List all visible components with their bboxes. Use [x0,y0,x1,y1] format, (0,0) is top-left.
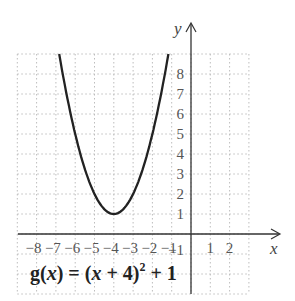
svg-text:−4: −4 [103,240,119,256]
y-axis [186,23,196,294]
svg-text:−6: −6 [64,240,80,256]
equation-label: g(x) = (x + 4)2 + 1 [30,260,177,285]
svg-text:7: 7 [177,86,185,102]
svg-text:−5: −5 [84,240,100,256]
svg-text:1: 1 [177,206,185,222]
svg-text:3: 3 [177,166,185,182]
svg-text:1: 1 [207,240,215,256]
svg-text:6: 6 [177,106,185,122]
svg-text:−3: −3 [122,240,138,256]
svg-text:−2: −2 [141,240,157,256]
svg-text:2: 2 [177,186,185,202]
svg-text:−1: −1 [168,242,184,258]
x-axis-label: x [269,239,278,258]
graph: y x −8−7−6−5−4−3−2−112 87654321−1 g(x) =… [0,0,295,301]
svg-text:2: 2 [226,240,234,256]
svg-text:−8: −8 [26,240,42,256]
y-tick-labels: 87654321−1 [168,66,184,258]
svg-text:4: 4 [177,146,185,162]
svg-text:5: 5 [177,126,185,142]
x-axis [18,229,280,239]
svg-text:−7: −7 [45,240,61,256]
y-axis-label: y [172,19,182,38]
grid [17,54,249,294]
svg-text:8: 8 [177,66,185,82]
